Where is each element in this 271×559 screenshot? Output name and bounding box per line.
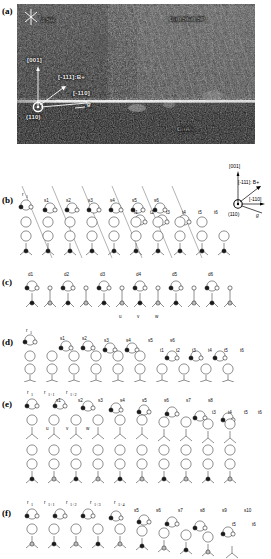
panel-b-label-r1: r — [22, 192, 24, 197]
panel-c-label-w: w — [155, 314, 159, 319]
panel-f-label-r1p2: r — [66, 500, 68, 505]
panel-e-label-v: v — [66, 426, 69, 431]
panel-c-label-d1: d1 — [28, 272, 34, 277]
axis-legend-b-zone: (110) — [228, 211, 240, 217]
axis-legend-b-110bar: [-110] — [249, 196, 262, 202]
panel-b-label-s5: s5 — [132, 198, 137, 203]
lattice-diagram-f: r1 r1+1 r1+2 r1+3 r1+4 s5 s6 s7 s8 s9 s1… — [0, 496, 271, 559]
panel-b-label-t4: t4 — [182, 210, 186, 215]
panel-a-label: (a) — [2, 6, 13, 16]
panel-e-label-s5: s5 — [142, 398, 147, 403]
panel-c-label-d2: d2 — [64, 272, 70, 277]
panel-d-label-t3: t3 — [192, 348, 196, 353]
panel-b-label-t3: t3 — [166, 210, 170, 215]
micrograph-image — [17, 4, 255, 144]
axis-legend-b: [001] [-111]: B+ [-110] (110) g — [228, 163, 265, 218]
direction-label-001: [001] — [27, 57, 42, 63]
panel-f-label-s6: s6 — [156, 508, 161, 513]
lattice-diagram-c: d1 d2 d3 d4 d5 d6 u v w — [0, 266, 271, 324]
panel-e-label-s8: s8 — [208, 398, 213, 403]
panel-e-label-t4: t4 — [228, 410, 232, 415]
panel-d-label-t6: t6 — [240, 348, 244, 353]
lattice-panel-c: d1 d2 d3 d4 d5 d6 u v w — [0, 266, 271, 324]
svg-text:1: 1 — [31, 502, 33, 507]
panel-e-label-s2: s2 — [78, 398, 83, 403]
direction-label-110bar: [-110] — [73, 90, 90, 96]
panel-f-label-r1p1: r — [44, 500, 46, 505]
lattice-diagram-e-lower — [0, 438, 271, 496]
panel-b-label-s3: s3 — [88, 198, 93, 203]
panel-e-label-r1p2: r — [66, 390, 68, 395]
panel-d-label-r1: r — [26, 328, 28, 333]
lattice-diagram-b: r 1 s1 s2 s3 s4 s5 s6 t1 t2 t3 t4 t5 t6 … — [0, 158, 271, 263]
panel-e-label-r1: r — [27, 390, 29, 395]
panel-c-label-v: v — [137, 314, 140, 319]
panel-f-label-r1: r — [27, 500, 29, 505]
panel-b-label-t2: t2 — [150, 210, 154, 215]
panel-e-label-s1: s1 — [56, 398, 61, 403]
direction-label-111b: [-111]:B+ — [58, 74, 85, 80]
panel-b-label-t6: t6 — [214, 210, 218, 215]
axis-legend-b-001: [001] — [229, 163, 241, 169]
panel-d-label-t2: t2 — [176, 348, 180, 353]
panel-f-label-s5: s5 — [134, 508, 139, 513]
axis-legend-b-g: g — [256, 212, 259, 218]
panel-e-label-u: u — [46, 426, 49, 431]
panel-e-label-s7: s7 — [186, 398, 191, 403]
lattice-panel-e-lower — [0, 438, 271, 496]
lattice-panel-b: r 1 s1 s2 s3 s4 s5 s6 t1 t2 t3 t4 t5 t6 … — [0, 158, 271, 263]
panel-d-label-s1: s1 — [60, 336, 65, 341]
scale-bar-label: 3.5Å — [41, 17, 54, 23]
lattice-panel-e: r1 r1+1 r1+2 s1 s2 s3 s4 s5 s6 s7 s8 t3 … — [0, 382, 271, 444]
panel-f-label-r1p3: r — [90, 500, 92, 505]
panel-e-label-s3: s3 — [98, 398, 103, 403]
panel-f-label-s7: s7 — [178, 508, 183, 513]
panel-c-label-d5: d5 — [172, 272, 178, 277]
lattice-panel-f: r1 r1+1 r1+2 r1+3 r1+4 s5 s6 s7 s8 s9 s1… — [0, 496, 271, 559]
lattice-diagram-d: r 1 s1 s2 s3 s4 s5 s6 t1 t2 t3 t4 t5 t6 — [0, 324, 271, 382]
panel-b-label-s2: s2 — [66, 198, 71, 203]
material-label-substrate: GaAs — [177, 126, 193, 132]
panel-c-label-d3: d3 — [100, 272, 106, 277]
panel-e-label-s4: s4 — [120, 398, 125, 403]
panel-d-label-s6: s6 — [170, 338, 175, 343]
panel-e-label-t3: t3 — [212, 410, 216, 415]
panel-f-label-t6: t6 — [252, 522, 256, 527]
panel-d-label-s4: s4 — [126, 338, 131, 343]
material-label-epilayer: Ga0.5In0.5P — [169, 16, 205, 22]
svg-text:1+1: 1+1 — [48, 392, 55, 397]
panel-c-label-d6: d6 — [208, 272, 214, 277]
panel-d-label-t4: t4 — [208, 348, 212, 353]
axis-legend-b-111: [-111]: B+ — [238, 179, 259, 185]
tem-micrograph: 3.5Å Ga0.5In0.5P GaAs [001] [-111]:B+ [-… — [17, 4, 255, 144]
lattice-diagram-e: r1 r1+1 r1+2 s1 s2 s3 s4 s5 s6 s7 s8 t3 … — [0, 382, 271, 444]
panel-e-label-r1p1: r — [44, 390, 46, 395]
panel-d-label-s5: s5 — [148, 338, 153, 343]
panel-f-label-s10: s10 — [244, 508, 252, 513]
panel-f-label-s9: s9 — [222, 508, 227, 513]
panel-b-label-s6: s6 — [154, 198, 159, 203]
panel-d-label-s3: s3 — [104, 338, 109, 343]
panel-e-label-s6: s6 — [164, 398, 169, 403]
svg-text:1+4: 1+4 — [118, 502, 125, 507]
svg-text:1+2: 1+2 — [70, 502, 77, 507]
panel-b-label-t5: t5 — [198, 210, 202, 215]
panel-b-label-s1: s1 — [44, 198, 49, 203]
panel-e-label-t6: t6 — [258, 410, 262, 415]
zone-axis-label: (110) — [26, 114, 41, 120]
panel-c-label-d4: d4 — [136, 272, 142, 277]
panel-d-label-t1: t1 — [160, 348, 164, 353]
panel-e-label-w: w — [86, 426, 90, 431]
lattice-panel-d: r 1 s1 s2 s3 s4 s5 s6 t1 t2 t3 t4 t5 t6 — [0, 324, 271, 382]
panel-d-label-t5: t5 — [224, 348, 228, 353]
svg-text:1: 1 — [31, 392, 33, 397]
panel-f-label-r1p4: r — [114, 500, 116, 505]
svg-text:1+2: 1+2 — [70, 392, 77, 397]
g-vector-label: g — [87, 101, 91, 107]
panel-b-label-r1-sub: 1 — [26, 194, 28, 199]
panel-d-label-s2: s2 — [82, 336, 87, 341]
panel-f-label-s8: s8 — [200, 508, 205, 513]
svg-text:1+1: 1+1 — [48, 502, 55, 507]
panel-b-label-t1: t1 — [134, 210, 138, 215]
panel-b-label-s4: s4 — [110, 198, 115, 203]
